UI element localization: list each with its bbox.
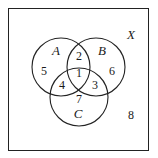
region-b-only: 6 bbox=[109, 64, 115, 78]
region-c-only: 7 bbox=[76, 92, 82, 106]
region-outside: 8 bbox=[128, 108, 134, 122]
region-ab: 2 bbox=[76, 49, 82, 63]
set-a-label: A bbox=[51, 43, 60, 58]
set-c-label: C bbox=[74, 106, 83, 121]
universe-label: X bbox=[126, 27, 136, 42]
region-bc: 3 bbox=[92, 78, 98, 92]
region-abc: 1 bbox=[76, 66, 82, 80]
region-ac: 4 bbox=[59, 78, 65, 92]
set-b-label: B bbox=[98, 43, 106, 58]
region-a-only: 5 bbox=[41, 64, 47, 78]
venn-diagram: X A B C 1 2 3 4 5 6 7 8 bbox=[0, 0, 158, 158]
